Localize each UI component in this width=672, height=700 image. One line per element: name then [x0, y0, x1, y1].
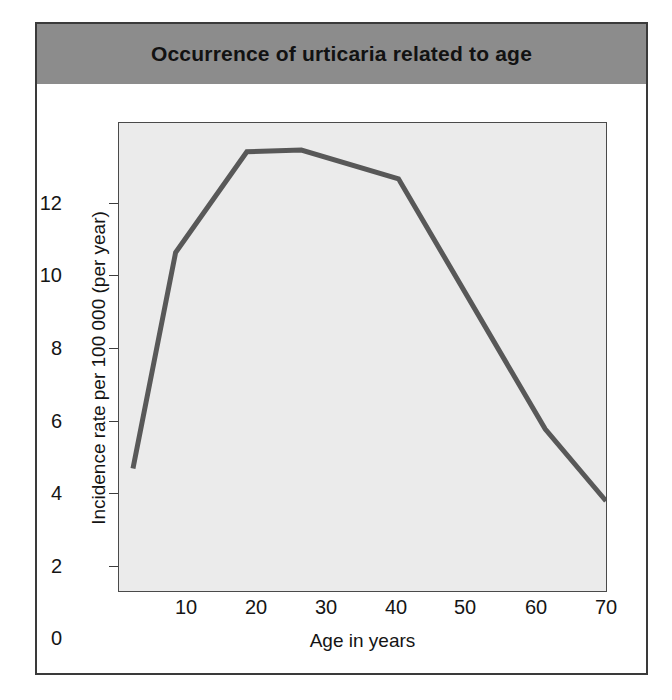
incidence-line-chart [119, 123, 606, 591]
x-tick-label-20: 20 [245, 596, 267, 619]
x-tick-label-30: 30 [315, 596, 337, 619]
chart-area: 12 10 8 6 4 2 0 10 20 30 40 50 60 70 Inc… [37, 84, 646, 673]
data-series-line [133, 150, 606, 501]
y-tick-10 [109, 275, 118, 276]
y-tick-label-8: 8 [22, 337, 62, 360]
y-tick-label-12: 12 [22, 192, 62, 215]
plot-area [118, 122, 607, 592]
y-tick-label-2: 2 [22, 555, 62, 578]
x-tick-label-50: 50 [454, 596, 476, 619]
y-tick-6 [109, 421, 118, 422]
x-axis-title: Age in years [118, 630, 607, 652]
y-tick-label-4: 4 [22, 482, 62, 505]
y-tick-label-0: 0 [22, 627, 62, 650]
x-tick-label-60: 60 [525, 596, 547, 619]
x-tick-label-70: 70 [595, 596, 617, 619]
figure-title: Occurrence of urticaria related to age [151, 42, 532, 66]
y-tick-label-10: 10 [22, 264, 62, 287]
x-tick-label-10: 10 [175, 596, 197, 619]
y-tick-12 [109, 203, 118, 204]
y-axis-title: Incidence rate per 100 000 (per year) [88, 153, 110, 583]
y-tick-label-6: 6 [22, 410, 62, 433]
x-tick-label-40: 40 [385, 596, 407, 619]
figure-title-band: Occurrence of urticaria related to age [37, 24, 646, 84]
y-tick-4 [109, 493, 118, 494]
y-tick-2 [109, 566, 118, 567]
y-tick-8 [109, 348, 118, 349]
figure-container: Occurrence of urticaria related to age 1… [35, 22, 648, 675]
